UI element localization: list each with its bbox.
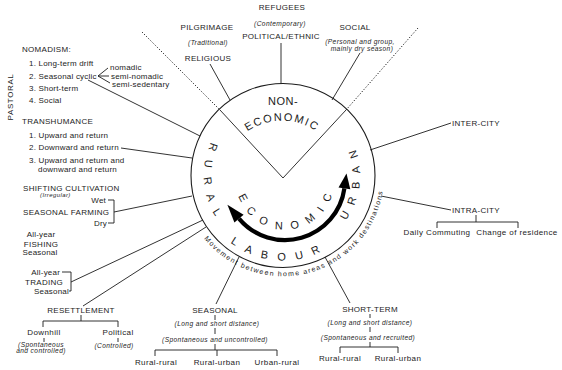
non-economic-arc-text: ECONOMIC <box>242 111 321 133</box>
transhumance-item: 2. Downward and return <box>29 143 119 152</box>
nomadism-item: 1. Long-term drift <box>29 59 94 68</box>
urban-arc-text: URBAN <box>337 140 362 222</box>
short-term-bracket <box>340 347 398 353</box>
seasonal-type: Rural-rural <box>135 358 177 367</box>
political-ethnic-label: POLITICAL/ETHNIC <box>242 32 320 41</box>
transhumance-item: 1. Upward and return <box>29 131 108 140</box>
short-term-type: Rural-urban <box>375 354 422 363</box>
short-term-note1: (Long and short distance) <box>328 319 413 327</box>
non-economic-label-line2: ECONOMIC <box>242 111 321 133</box>
urban-label: URBAN <box>337 140 362 222</box>
arrowhead-right-icon <box>339 174 351 190</box>
connector-resettlement <box>83 227 206 306</box>
political-label: Political <box>102 328 133 337</box>
transhumance-item-continued: downward and return <box>38 165 117 174</box>
seasonal-title: SEASONAL <box>192 306 238 315</box>
seasonal-note2: (Spontaneous and uncontrolled) <box>162 336 268 344</box>
connector-intra-city <box>381 196 451 210</box>
seasonal-type: Urban-rural <box>255 358 300 367</box>
connector-social <box>332 53 360 100</box>
social-note-line2: mainly dry season) <box>331 45 394 53</box>
shifting-cultivation-note: (Irregular) <box>40 192 71 198</box>
shifting-cultivation-title: SHIFTING CULTIVATION <box>23 184 120 193</box>
seasonal-farming-dry: Dry <box>94 219 107 228</box>
transhumance-item: 3. Upward and return and <box>29 156 125 165</box>
seasonal-farming-title: SEASONAL FARMING <box>23 208 109 217</box>
rural-label: RURAL <box>202 142 230 227</box>
intra-city-title: INTRA-CITY <box>452 206 500 215</box>
subtype-fork <box>98 68 109 76</box>
short-term-type: Rural-rural <box>319 354 361 363</box>
mobility-classification-diagram: NON- ECONOMIC RURAL LABOUR URBAN ECONOMI… <box>0 0 562 370</box>
intra-city-type: Daily Commuting <box>404 228 471 237</box>
trading-seasonal: Seasonal <box>34 287 69 296</box>
downhill-note-line2: and controlled) <box>16 347 66 355</box>
seasonal-farming-wet: Wet <box>91 196 106 205</box>
economic-arc-text: ECONOMIC <box>236 183 336 231</box>
political-note: (Controlled) <box>94 342 133 350</box>
pastoral-label: PASTORAL <box>6 74 15 121</box>
connector-seasonal-farming <box>114 196 192 212</box>
trading-title: TRADING <box>25 278 63 287</box>
downhill-label: Downhill <box>27 328 60 337</box>
trading-all-year: All-year <box>31 268 60 277</box>
transhumance-title: TRANSHUMANCE <box>22 117 93 126</box>
short-term-note2: (Spontaneous and recruited) <box>321 334 415 342</box>
economic-label: ECONOMIC <box>236 183 336 231</box>
nomadism-subtype: semi-sedentary <box>112 80 170 89</box>
intra-city-type: Change of residence <box>476 228 558 237</box>
seasonal-type: Rural-urban <box>194 358 241 367</box>
social-title: SOCIAL <box>339 23 370 32</box>
short-term-title: SHORT-TERM <box>342 305 398 314</box>
nomadism-title: NOMADISM: <box>22 45 71 54</box>
connector-transhumance <box>121 148 192 158</box>
religious-label: RELIGIOUS <box>185 54 231 63</box>
subtype-fork <box>98 76 110 83</box>
connector-trading <box>71 220 203 282</box>
nomadism-item: 3. Short-term <box>29 84 78 93</box>
resettlement-bracket <box>43 321 118 327</box>
connector-short-term <box>325 257 350 303</box>
pilgrimage-title: PILGRIMAGE <box>181 23 234 32</box>
rural-arc-text: RURAL <box>202 142 230 227</box>
inter-city-title: INTER-CITY <box>452 119 500 128</box>
refugees-note: (Contemporary) <box>254 20 306 28</box>
connector-religious <box>210 64 230 100</box>
seasonal-bracket <box>155 350 277 356</box>
connector-inter-city <box>370 123 451 150</box>
nomadism-subtype: nomadic <box>110 63 142 72</box>
resettlement-title: RESETTLEMENT <box>47 306 115 315</box>
fishing-seasonal: Seasonal <box>23 248 58 257</box>
refugees-title: REFUGEES <box>259 3 305 12</box>
non-economic-label-line1: NON- <box>268 95 298 107</box>
fishing-all-year: All-year <box>27 230 56 239</box>
nomadism-item: 4. Social <box>29 96 62 105</box>
connector-seasonal <box>216 257 239 304</box>
pilgrimage-note: (Traditional) <box>188 39 228 47</box>
seasonal-note1: (Long and short distance) <box>175 320 260 328</box>
nomadism-item: 2. Seasonal cyclic <box>29 72 97 81</box>
